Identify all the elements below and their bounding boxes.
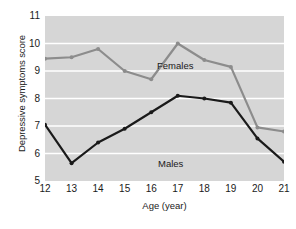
data-point-males xyxy=(123,127,127,131)
data-point-females xyxy=(123,69,127,73)
data-point-females xyxy=(70,55,74,59)
data-point-females xyxy=(202,58,206,62)
data-point-females xyxy=(96,47,100,51)
chart-figure: Depressive symptoms score 567891011 Fema… xyxy=(0,0,296,229)
y-axis-tick-labels: 567891011 xyxy=(14,16,40,181)
y-tick-label: 8 xyxy=(14,94,40,104)
data-point-males xyxy=(149,110,153,114)
x-tick-label: 20 xyxy=(244,183,270,195)
y-tick-label: 11 xyxy=(14,11,40,21)
series-label-males: Males xyxy=(158,158,183,169)
data-point-females xyxy=(282,130,284,134)
y-tick-label: 10 xyxy=(14,39,40,49)
x-tick-label: 16 xyxy=(138,183,164,195)
data-point-males xyxy=(70,161,74,165)
series-label-females: Females xyxy=(157,60,193,71)
data-point-females xyxy=(149,77,153,81)
data-point-males xyxy=(176,94,180,98)
data-point-females xyxy=(255,125,259,129)
data-point-females xyxy=(176,42,180,46)
y-tick-label: 6 xyxy=(14,149,40,159)
y-tick-label: 9 xyxy=(14,66,40,76)
plot-area: Females Males xyxy=(45,16,284,181)
x-tick-label: 12 xyxy=(32,183,58,195)
series-line-females xyxy=(45,44,284,132)
x-tick-label: 18 xyxy=(191,183,217,195)
data-point-females xyxy=(45,57,47,61)
x-tick-label: 21 xyxy=(271,183,296,195)
x-tick-label: 14 xyxy=(85,183,111,195)
x-axis-tick-labels: 12131415161718192021 xyxy=(45,183,284,197)
data-point-males xyxy=(202,97,206,101)
data-point-males xyxy=(229,101,233,105)
x-tick-label: 15 xyxy=(112,183,138,195)
x-axis-title: Age (year) xyxy=(45,200,284,211)
data-point-males xyxy=(96,141,100,145)
plot-svg xyxy=(45,16,284,181)
x-tick-label: 19 xyxy=(218,183,244,195)
x-tick-label: 17 xyxy=(165,183,191,195)
x-tick-label: 13 xyxy=(59,183,85,195)
y-tick-label: 7 xyxy=(14,121,40,131)
data-point-males xyxy=(255,136,259,140)
data-point-females xyxy=(229,65,233,69)
